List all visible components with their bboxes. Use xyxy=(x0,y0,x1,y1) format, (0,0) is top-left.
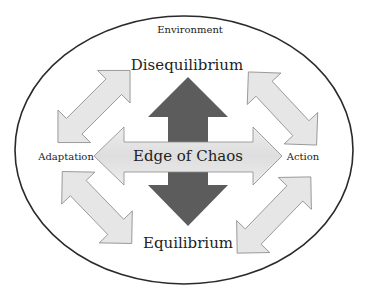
disequilibrium-label: Disequilibrium xyxy=(131,56,244,74)
edge-of-chaos-diagram: Environment Disequilibrium Edge of Chaos… xyxy=(0,0,366,301)
equilibrium-label: Equilibrium xyxy=(143,234,233,252)
action-label: Action xyxy=(287,151,320,162)
adaptation-label: Adaptation xyxy=(38,151,94,162)
edge-of-chaos-label: Edge of Chaos xyxy=(133,147,243,165)
environment-label: Environment xyxy=(157,24,223,35)
